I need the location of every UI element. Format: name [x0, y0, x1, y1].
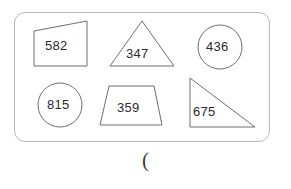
shape-circle-815[interactable]: 815 [37, 82, 83, 128]
shape-label-436: 436 [206, 40, 229, 53]
shape-circle-436[interactable]: 436 [197, 24, 243, 70]
shape-trapezoid-359[interactable]: 359 [99, 85, 163, 127]
shape-label-675: 675 [193, 105, 216, 118]
shape-right-triangle-675[interactable]: 675 [189, 77, 257, 129]
paren-mark: ( [142, 148, 149, 172]
right-triangle-outline-icon [189, 77, 257, 129]
shape-triangle-347[interactable]: 347 [109, 20, 175, 68]
shape-label-582: 582 [45, 39, 68, 52]
shape-label-815: 815 [47, 98, 70, 111]
answer-paren-row: ( [0, 150, 291, 171]
worksheet-canvas: 582 347 436 815 359 675 ( [0, 0, 291, 189]
shape-label-359: 359 [117, 101, 140, 114]
shape-label-347: 347 [126, 47, 149, 60]
shape-quadrilateral-582[interactable]: 582 [33, 20, 89, 68]
